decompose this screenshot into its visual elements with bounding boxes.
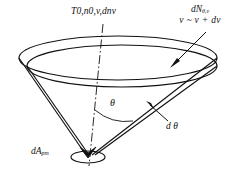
apex-wedge bbox=[80, 147, 96, 158]
flux-arrow-head bbox=[170, 58, 180, 68]
flux-label: dNθ,v v ~ v + dv bbox=[170, 5, 230, 26]
flux-label-subscript: θ,v bbox=[202, 8, 209, 14]
area-element-subscript: pm bbox=[42, 150, 49, 156]
angle-arc bbox=[95, 110, 133, 121]
outer-rim-ellipse bbox=[19, 36, 217, 80]
cone-diagram-figure: T0,n0,v,dnv dNθ,v v ~ v + dv θ d θ dApm bbox=[0, 0, 243, 174]
area-element-text: dA bbox=[31, 146, 42, 156]
axis-condition-text: T0,n0,v,dnv bbox=[71, 6, 116, 16]
angle-increment-label: d θ bbox=[166, 122, 178, 132]
inner-cone-left-edge bbox=[27, 66, 89, 155]
dtheta-arrow-head bbox=[146, 101, 154, 109]
flux-label-line2: v ~ v + dv bbox=[170, 16, 230, 26]
flux-label-line1: dN bbox=[191, 4, 202, 14]
outer-cone-left-edge bbox=[19, 58, 86, 155]
angle-label: θ bbox=[110, 98, 115, 109]
flux-arrow-line bbox=[175, 32, 206, 63]
area-element-label: dApm bbox=[31, 147, 49, 157]
axis-condition-label: T0,n0,v,dnv bbox=[71, 7, 116, 17]
inner-rim-ellipse bbox=[27, 45, 217, 87]
